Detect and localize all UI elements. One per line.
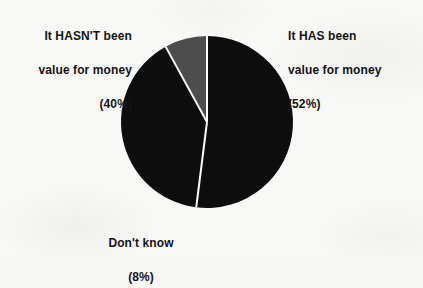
pie-label-dont-know: Don't know (8%) xyxy=(78,218,204,288)
pie-label-has-line1: It HAS been xyxy=(288,28,418,45)
pie-label-has-been-value-for-money: It HAS been value for money (52%) xyxy=(288,11,418,130)
pie-label-hasnt-line2: value for money xyxy=(6,62,132,79)
pie-label-hasnt-line1: It HASN'T been xyxy=(6,28,132,45)
pie-label-has-line2: value for money xyxy=(288,62,418,79)
pie-label-has-percent: (52%) xyxy=(288,96,418,113)
pie-label-dont-know-percent: (8%) xyxy=(78,269,204,286)
pie-label-hasnt-been-value-for-money: It HASN'T been value for money (40%) xyxy=(6,11,132,130)
pie-label-dont-know-line1: Don't know xyxy=(78,235,204,252)
pie-label-hasnt-percent: (40%) xyxy=(6,96,132,113)
pie-slice[interactable] xyxy=(196,36,293,208)
